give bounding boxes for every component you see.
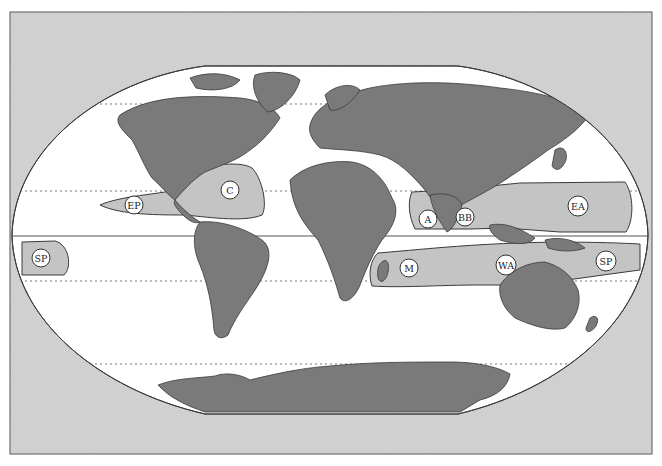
label-a: A xyxy=(419,210,437,228)
svg-text:EA: EA xyxy=(571,201,585,212)
svg-text:EP: EP xyxy=(127,200,141,211)
label-sp-east: SP xyxy=(596,251,616,271)
svg-text:M: M xyxy=(404,263,414,274)
label-bb: BB xyxy=(456,208,474,226)
label-ea: EA xyxy=(568,196,588,216)
svg-text:BB: BB xyxy=(458,212,472,223)
svg-text:SP: SP xyxy=(35,253,49,264)
svg-text:C: C xyxy=(226,185,233,196)
svg-text:A: A xyxy=(424,214,432,225)
label-c: C xyxy=(221,181,239,199)
svg-text:WA: WA xyxy=(498,260,514,271)
label-m: M xyxy=(400,259,418,277)
label-sp-west: SP xyxy=(32,249,50,267)
svg-text:SP: SP xyxy=(600,256,614,267)
label-ep: EP xyxy=(125,196,143,214)
label-wa: WA xyxy=(496,255,516,275)
world-map: EP C A BB EA SP xyxy=(0,0,662,466)
